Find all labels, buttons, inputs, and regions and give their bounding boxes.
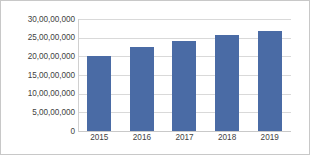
bar-chart: 30,00,00,000 25,00,00,000 20,00,00,000 1…	[0, 0, 310, 155]
gridline-0	[78, 131, 291, 132]
bar-2018[interactable]	[215, 35, 239, 131]
x-tick-label: 2015	[78, 134, 121, 142]
bar-slot	[78, 19, 121, 131]
bar-slot	[163, 19, 206, 131]
bar-2017[interactable]	[172, 41, 196, 131]
x-tick-label: 2019	[248, 134, 291, 142]
y-tick-label: 20,00,00,000	[3, 53, 75, 61]
bar-slot	[206, 19, 249, 131]
bars-layer	[78, 19, 291, 131]
y-tick-label: 30,00,00,000	[3, 16, 75, 24]
y-axis: 30,00,00,000 25,00,00,000 20,00,00,000 1…	[1, 1, 75, 155]
y-tick-label: 5,00,00,000	[3, 109, 75, 117]
y-tick-label: 25,00,00,000	[3, 34, 75, 42]
bar-slot	[121, 19, 164, 131]
x-tick-label: 2016	[121, 134, 164, 142]
bar-slot	[248, 19, 291, 131]
y-tick-label: 15,00,00,000	[3, 72, 75, 80]
x-tick-label: 2018	[206, 134, 249, 142]
y-tick-label: 10,00,00,000	[3, 90, 75, 98]
bar-2015[interactable]	[87, 56, 111, 131]
bar-2019[interactable]	[258, 31, 282, 131]
x-axis: 2015 2016 2017 2018 2019	[78, 134, 291, 154]
bar-2016[interactable]	[130, 47, 154, 131]
x-tick-label: 2017	[163, 134, 206, 142]
y-tick-label: 0	[3, 128, 75, 136]
